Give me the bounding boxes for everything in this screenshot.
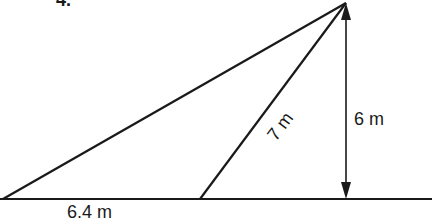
long-hypotenuse	[3, 3, 346, 199]
triangle-diagram: 4. 6.4 m 7 m 6 m	[0, 0, 432, 222]
label-height: 6 m	[354, 109, 384, 129]
arrowhead-down-icon	[341, 182, 351, 199]
label-slant-length: 7 m	[263, 108, 297, 144]
slant-side-7m	[200, 3, 346, 199]
problem-number: 4.	[56, 0, 71, 10]
label-base-length: 6.4 m	[67, 202, 112, 222]
